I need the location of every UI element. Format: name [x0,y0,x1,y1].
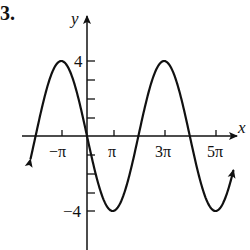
x-tick-label-pi: π [108,143,116,160]
x-axis-label: x [237,118,246,137]
sine-graph: y x −π π 3π 5π 4 −4 [0,0,250,250]
y-tick-label-neg4: −4 [63,202,82,221]
y-tick-label-4: 4 [74,52,83,71]
x-tick-label-5pi: 5π [207,143,223,160]
x-tick-label-3pi: 3π [155,143,171,160]
y-axis-label: y [69,9,79,28]
x-tick-label-neg-pi: −π [49,143,66,160]
